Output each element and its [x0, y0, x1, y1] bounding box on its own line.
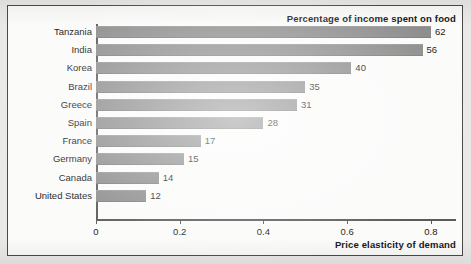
category-label: Brazil: [68, 81, 92, 93]
chart-title: Percentage of income spent on food: [287, 13, 456, 24]
bar-row[interactable]: 12: [96, 190, 456, 202]
x-axis-tick: [431, 219, 432, 224]
x-axis-tick: [347, 219, 348, 224]
x-axis-tick: [96, 219, 97, 224]
bar[interactable]: [96, 153, 184, 165]
bar-value-label: 15: [188, 152, 199, 165]
chart-figure: Percentage of income spent on food Tanza…: [0, 0, 471, 264]
bar-value-label: 14: [163, 171, 174, 184]
plot-area: 00.20.40.60.862564035312817151412: [96, 24, 456, 219]
x-axis-line: [96, 219, 456, 221]
x-axis-tick: [263, 219, 264, 224]
x-axis-tick-label: 0.4: [257, 226, 270, 237]
category-label: France: [62, 135, 92, 147]
category-axis: TanzaniaIndiaKoreaBrazilGreeceSpainFranc…: [18, 24, 92, 219]
chart-card: Percentage of income spent on food Tanza…: [7, 5, 463, 256]
bar-row[interactable]: 40: [96, 62, 456, 74]
bar-value-label: 56: [427, 43, 438, 56]
bar-value-label: 40: [355, 61, 366, 74]
bar-row[interactable]: 28: [96, 117, 456, 129]
x-axis-tick: [180, 219, 181, 224]
bar-value-label: 35: [309, 80, 320, 93]
bar-value-label: 31: [301, 98, 312, 111]
x-axis-tick-label: 0.6: [341, 226, 354, 237]
bar-row[interactable]: 14: [96, 172, 456, 184]
category-label: Germany: [53, 153, 92, 165]
bar-row[interactable]: 31: [96, 99, 456, 111]
bar-value-label: 28: [267, 116, 278, 129]
x-axis-title: Price elasticity of demand: [335, 239, 456, 250]
bar-row[interactable]: 35: [96, 81, 456, 93]
bar[interactable]: [96, 190, 146, 202]
category-label: Greece: [61, 99, 92, 111]
category-label: United States: [35, 190, 92, 202]
bar-value-label: 12: [150, 189, 161, 202]
bar[interactable]: [96, 135, 201, 147]
category-label: Canada: [59, 172, 92, 184]
category-label: Spain: [68, 117, 92, 129]
bar-value-label: 62: [435, 25, 446, 38]
x-axis-tick-label: 0.8: [424, 226, 437, 237]
bar[interactable]: [96, 44, 423, 56]
bar[interactable]: [96, 99, 297, 111]
category-label: Tanzania: [54, 26, 92, 38]
category-label: India: [71, 44, 92, 56]
x-axis-tick-label: 0.2: [173, 226, 186, 237]
bar[interactable]: [96, 172, 159, 184]
bar-row[interactable]: 56: [96, 44, 456, 56]
bar[interactable]: [96, 62, 351, 74]
bar-row[interactable]: 62: [96, 26, 456, 38]
bar[interactable]: [96, 81, 305, 93]
bar[interactable]: [96, 117, 263, 129]
bar-row[interactable]: 15: [96, 153, 456, 165]
category-label: Korea: [67, 62, 92, 74]
x-axis-tick-label: 0: [93, 226, 98, 237]
bar[interactable]: [96, 26, 431, 38]
bar-row[interactable]: 17: [96, 135, 456, 147]
bar-value-label: 17: [205, 134, 216, 147]
